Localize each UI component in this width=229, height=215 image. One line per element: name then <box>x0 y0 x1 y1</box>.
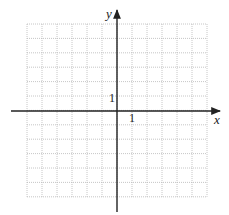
y-tick-label-1: 1 <box>109 91 115 105</box>
x-axis-label: x <box>213 112 220 127</box>
coordinate-plane: x y 1 1 <box>0 0 229 215</box>
y-axis-label: y <box>104 6 112 21</box>
x-tick-label-1: 1 <box>129 111 135 125</box>
